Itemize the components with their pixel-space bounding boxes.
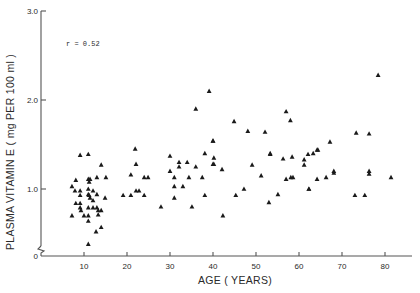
data-point-triangle	[354, 130, 359, 134]
x-tick-label: 20	[123, 262, 132, 271]
data-point-triangle	[95, 175, 100, 179]
data-point-triangle	[99, 225, 104, 229]
data-point-triangle	[232, 119, 237, 123]
data-point-triangle	[193, 106, 198, 110]
data-point-triangle	[211, 155, 216, 159]
data-point-triangle	[91, 188, 96, 192]
x-tick-label: 30	[166, 262, 175, 271]
data-point-triangle	[96, 212, 101, 216]
data-point-triangle	[290, 154, 295, 158]
data-point-triangle	[70, 213, 75, 217]
x-tick-label: 80	[381, 262, 390, 271]
data-point-triangle	[190, 204, 195, 208]
data-point-triangle	[168, 153, 173, 157]
data-point-triangle	[353, 193, 358, 197]
y-tick-label: 1.0	[27, 185, 39, 194]
data-point-triangle	[306, 186, 311, 190]
data-point-triangle	[376, 72, 381, 76]
data-point-triangle	[202, 151, 207, 155]
data-point-triangle	[103, 195, 108, 199]
data-point-triangle	[86, 242, 91, 246]
data-point-triangle	[86, 205, 91, 209]
data-point-triangle	[86, 152, 91, 156]
data-point-triangle	[142, 175, 147, 179]
data-point-triangle	[181, 184, 186, 188]
data-point-triangle	[233, 193, 238, 197]
data-points	[70, 72, 394, 246]
data-point-triangle	[284, 177, 289, 181]
data-point-triangle	[315, 177, 320, 181]
data-point-triangle	[78, 201, 83, 205]
data-point-triangle	[389, 175, 394, 179]
data-point-triangle	[82, 213, 87, 217]
data-point-triangle	[220, 167, 225, 171]
data-point-triangle	[259, 173, 264, 177]
y-axis-label: PLASMA VITAMIN E ( mg PER 100 ml )	[4, 54, 16, 250]
data-point-triangle	[200, 175, 205, 179]
data-point-triangle	[94, 229, 99, 233]
x-axis-label: AGE ( YEARS)	[198, 274, 272, 286]
data-point-triangle	[328, 139, 333, 143]
data-point-triangle	[202, 193, 207, 197]
data-point-triangle	[137, 188, 142, 192]
data-point-triangle	[263, 129, 268, 133]
data-point-triangle	[306, 152, 311, 156]
y-tick-label: 2.0	[27, 96, 39, 105]
data-point-triangle	[91, 205, 96, 209]
data-point-triangle	[187, 175, 192, 179]
data-point-triangle	[281, 156, 286, 160]
plot-area: 102030405060708001.02.03.0 r = 0.52 AGE …	[0, 0, 420, 293]
data-point-triangle	[73, 188, 78, 192]
data-point-triangle	[172, 195, 177, 199]
data-point-triangle	[172, 175, 177, 179]
data-point-triangle	[288, 118, 293, 122]
data-point-triangle	[78, 193, 83, 197]
data-point-triangle	[168, 169, 173, 173]
data-point-triangle	[242, 186, 247, 190]
data-point-triangle	[99, 208, 104, 212]
x-tick-label: 70	[338, 262, 347, 271]
x-tick-label: 50	[252, 262, 261, 271]
scatter-chart: 102030405060708001.02.03.0 r = 0.52 AGE …	[0, 0, 420, 293]
x-tick-label: 40	[209, 262, 218, 271]
data-point-triangle	[302, 162, 307, 166]
x-tick-label: 60	[295, 262, 304, 271]
correlation-annotation: r = 0.52	[66, 40, 100, 48]
data-point-triangle	[99, 162, 104, 166]
data-point-triangle	[146, 175, 151, 179]
data-point-triangle	[172, 184, 177, 188]
data-point-triangle	[276, 192, 281, 196]
data-point-triangle	[78, 205, 83, 209]
data-point-triangle	[142, 193, 147, 197]
data-point-triangle	[78, 188, 83, 192]
data-point-triangle	[73, 178, 78, 182]
data-point-triangle	[121, 193, 126, 197]
data-point-triangle	[73, 201, 78, 205]
data-point-triangle	[193, 164, 198, 168]
data-point-triangle	[177, 164, 182, 168]
data-point-triangle	[133, 146, 138, 150]
data-point-triangle	[177, 160, 182, 164]
data-point-triangle	[268, 151, 273, 155]
data-point-triangle	[267, 200, 272, 204]
data-point-triangle	[128, 193, 133, 197]
data-point-triangle	[367, 131, 372, 135]
data-point-triangle	[159, 204, 164, 208]
data-point-triangle	[86, 186, 91, 190]
axis-break-mark	[38, 246, 44, 256]
data-point-triangle	[104, 175, 109, 179]
x-tick-label: 10	[80, 262, 89, 271]
data-point-triangle	[134, 161, 139, 165]
y-tick-label: 0	[34, 252, 39, 261]
data-point-triangle	[302, 157, 307, 161]
data-point-triangle	[86, 213, 91, 217]
data-point-triangle	[86, 218, 91, 222]
data-point-triangle	[211, 138, 216, 142]
data-point-triangle	[220, 213, 225, 217]
data-point-triangle	[78, 153, 83, 157]
data-point-triangle	[245, 129, 250, 133]
data-point-triangle	[70, 184, 75, 188]
y-tick-label: 3.0	[27, 7, 39, 16]
data-point-triangle	[250, 162, 255, 166]
data-point-triangle	[128, 172, 133, 176]
